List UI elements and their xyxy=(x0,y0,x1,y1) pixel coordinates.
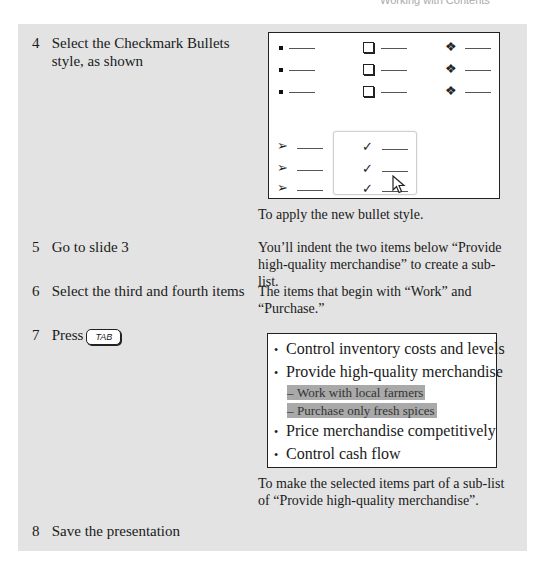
press-label: Press xyxy=(52,327,84,343)
filled-square-icon xyxy=(279,90,283,94)
step-5: 5 Go to slide 3 xyxy=(32,238,129,256)
checkmark-icon: ✓ xyxy=(362,161,373,177)
diamond-bullet-icon: ❖ xyxy=(445,83,457,99)
step-text: Save the presentation xyxy=(52,522,180,540)
dash-icon: – xyxy=(287,384,297,402)
step-4-description: To apply the new bullet style. xyxy=(258,206,508,223)
step-text: Go to slide 3 xyxy=(52,238,129,256)
bullet-icon: • xyxy=(274,422,286,443)
dash-icon: – xyxy=(287,402,297,420)
item-text: Provide high-quality merchandise xyxy=(286,363,503,380)
step-8: 8 Save the presentation xyxy=(32,522,180,540)
slide-list-item[interactable]: •Control inventory costs and levels xyxy=(274,338,496,361)
item-text: Control inventory costs and levels xyxy=(286,340,505,357)
filled-square-icon xyxy=(279,68,283,72)
slide-preview: •Control inventory costs and levels •Pro… xyxy=(267,333,497,468)
mouse-pointer-icon xyxy=(392,175,406,195)
checkmark-icon: ✓ xyxy=(362,181,373,197)
step-number: 4 xyxy=(32,34,48,52)
checkmark-icon: ✓ xyxy=(362,139,373,155)
selection-highlight: –Purchase only fresh spices xyxy=(287,403,437,418)
arrow-bullet-icon: ➢ xyxy=(277,180,288,196)
bullet-icon: • xyxy=(274,363,286,384)
bullet-icon: • xyxy=(274,340,286,361)
item-text: Control cash flow xyxy=(286,445,401,462)
slide-sub-item-selected[interactable]: –Work with local farmers xyxy=(274,384,496,402)
step-text: Select the Checkmark Bullets style, as s… xyxy=(52,34,252,70)
slide-bullet-list: •Control inventory costs and levels •Pro… xyxy=(268,334,496,466)
diamond-bullet-icon: ❖ xyxy=(445,61,457,77)
hollow-square-icon xyxy=(363,42,374,53)
step-text: Select the third and fourth items xyxy=(52,282,245,300)
step-text: PressTAB xyxy=(52,326,122,345)
selection-highlight: –Work with local farmers xyxy=(287,385,425,400)
step-7-description: To make the selected items part of a sub… xyxy=(258,475,508,509)
arrow-bullet-icon: ➢ xyxy=(277,160,288,176)
step-6-description: The items that begin with “Work” and “Pu… xyxy=(258,283,508,317)
item-text: Work with local farmers xyxy=(297,385,423,400)
step-4: 4 Select the Checkmark Bullets style, as… xyxy=(32,34,252,70)
step-number: 8 xyxy=(32,522,48,540)
slide-list-item[interactable]: •Control cash flow xyxy=(274,443,496,466)
step-number: 5 xyxy=(32,238,48,256)
arrow-bullet-icon: ➢ xyxy=(277,138,288,154)
filled-square-icon xyxy=(279,46,283,50)
step-number: 7 xyxy=(32,326,48,344)
slide-list-item[interactable]: •Provide high-quality merchandise xyxy=(274,361,496,384)
hollow-square-icon xyxy=(363,86,374,97)
item-text: Purchase only fresh spices xyxy=(297,403,435,418)
tab-key-icon: TAB xyxy=(86,329,121,345)
slide-list-item[interactable]: •Price merchandise competitively xyxy=(274,420,496,443)
slide-sub-item-selected[interactable]: –Purchase only fresh spices xyxy=(274,402,496,420)
hollow-square-icon xyxy=(363,64,374,75)
diamond-bullet-icon: ❖ xyxy=(445,39,457,55)
step-6: 6 Select the third and fourth items xyxy=(32,282,245,300)
step-number: 6 xyxy=(32,282,48,300)
step-7: 7 PressTAB xyxy=(32,326,121,345)
bullet-icon: • xyxy=(274,445,286,466)
running-header: Working with Contents xyxy=(380,0,541,6)
bullet-style-gallery: ❖ ❖ ❖ ➢ ➢ ➢ ✓ ✓ ✓ xyxy=(268,32,500,199)
item-text: Price merchandise competitively xyxy=(286,422,496,439)
